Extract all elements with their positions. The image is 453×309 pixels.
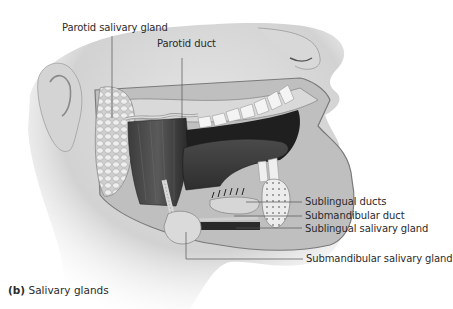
label-submandibular-duct: Submandibular duct (305, 210, 405, 222)
label-sublingual-ducts: Sublingual ducts (305, 196, 386, 208)
masseter-muscle (128, 118, 188, 206)
label-submandibular-salivary-gland: Submandibular salivary gland (306, 253, 453, 265)
caption-text: Salivary glands (25, 284, 109, 296)
caption-tag: (b) (8, 284, 25, 296)
figure-caption: (b) Salivary glands (8, 284, 109, 296)
label-sublingual-salivary-gland: Sublingual salivary gland (305, 223, 428, 235)
sublingual-gland-shape (210, 197, 259, 214)
submandibular-gland-shape (164, 211, 201, 244)
submandibular-duct-shape (196, 218, 258, 220)
label-parotid-duct: Parotid duct (157, 38, 216, 50)
label-parotid-salivary-gland: Parotid salivary gland (62, 22, 168, 34)
